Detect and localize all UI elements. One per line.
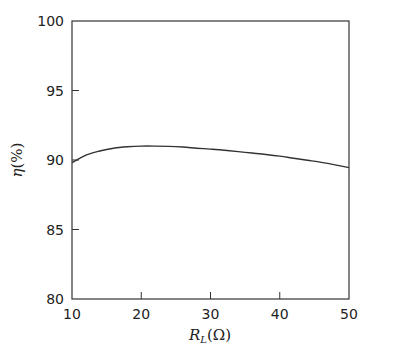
- x-tick-label: 30: [202, 306, 220, 322]
- y-axis-ticks: 80859095100: [37, 13, 79, 307]
- x-axis-label: RL(Ω): [188, 326, 231, 345]
- y-tick-label: 95: [46, 83, 64, 99]
- y-tick-label: 85: [46, 222, 64, 238]
- x-axis-ticks: 1020304050: [63, 292, 358, 322]
- y-tick-label: 100: [37, 13, 64, 29]
- x-tick-label: 20: [132, 306, 150, 322]
- y-tick-label: 90: [46, 152, 64, 168]
- x-tick-label: 10: [63, 306, 81, 322]
- x-tick-label: 50: [340, 306, 358, 322]
- efficiency-chart: 80859095100 1020304050 RL(Ω) η(%): [0, 0, 394, 354]
- x-tick-label: 40: [271, 306, 289, 322]
- y-tick-label: 80: [46, 291, 64, 307]
- y-axis-label: η(%): [8, 143, 26, 178]
- efficiency-curve: [72, 146, 349, 168]
